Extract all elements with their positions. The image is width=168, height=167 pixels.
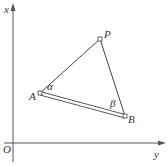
horizontal-axis-arrow-icon (158, 141, 166, 146)
vertical-axis-label: x (3, 3, 9, 15)
geometry-diagram: x y O P A B α β (0, 0, 168, 167)
origin-label: O (3, 143, 11, 155)
point-b-marker (123, 114, 127, 118)
horizontal-axis-label: y (153, 148, 159, 160)
angle-beta-label: β (109, 97, 116, 109)
angle-alpha-label: α (47, 80, 53, 92)
vertical-axis-arrow-icon (11, 3, 16, 11)
point-p-marker (98, 37, 102, 41)
point-a-label: A (28, 90, 36, 102)
horizontal-axis (4, 141, 166, 146)
point-p-label: P (103, 28, 111, 40)
point-b-label: B (128, 113, 135, 125)
vertical-axis (11, 3, 16, 162)
point-a-marker (38, 91, 42, 95)
